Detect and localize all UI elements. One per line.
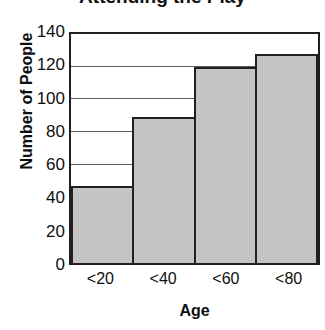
y-tick-label-40: 40 [46,188,65,208]
y-axis-tick-labels: 020406080100120140 [22,32,65,265]
y-tick-label-80: 80 [46,122,65,142]
bar-80 [255,54,318,263]
y-tick-label-100: 100 [37,89,65,109]
bar-chart-figure: Attending the Play Number of People 0204… [0,0,325,330]
y-tick-label-20: 20 [46,222,65,242]
x-tick-label-40: <40 [132,270,195,288]
bar-60 [194,67,257,263]
x-axis-title: Age [69,302,320,320]
chart-title: Attending the Play [0,0,325,8]
y-tick-label-0: 0 [56,255,65,275]
y-tick-label-60: 60 [46,155,65,175]
x-tick-label-60: <60 [195,270,258,288]
plot-area [69,32,320,265]
x-axis-tick-labels: <20<40<60<80 [69,270,320,288]
bars-group [71,34,318,263]
bar-40 [132,117,195,263]
y-tick-label-120: 120 [37,55,65,75]
x-tick-label-80: <80 [257,270,320,288]
x-tick-label-20: <20 [69,270,132,288]
bar-20 [71,186,134,263]
y-tick-label-140: 140 [37,22,65,42]
